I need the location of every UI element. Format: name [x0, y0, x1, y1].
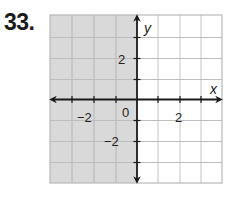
- coordinate-plane: y x 0 −2 2 2 −2: [0, 0, 229, 197]
- x-tick-label-2: 2: [175, 110, 182, 125]
- x-axis-label: x: [209, 81, 218, 97]
- origin-label: 0: [122, 105, 129, 120]
- y-tick-label-neg2: −2: [104, 134, 119, 149]
- y-tick-label-2: 2: [118, 52, 125, 67]
- y-axis-label: y: [143, 20, 152, 36]
- x-tick-label-neg2: −2: [77, 110, 92, 125]
